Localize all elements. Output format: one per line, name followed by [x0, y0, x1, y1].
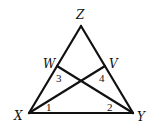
vertex-label-z: Z [75, 8, 85, 22]
vertex-label-y: Y [137, 110, 146, 121]
point-label-v: V [109, 57, 119, 71]
segment-yz [81, 26, 133, 113]
angle-label-4: 4 [99, 72, 105, 84]
angle-label-1: 1 [46, 101, 52, 113]
angle-label-2: 2 [107, 101, 113, 113]
angle-label-3: 3 [56, 72, 62, 84]
point-label-w: W [43, 57, 57, 71]
vertex-label-x: X [13, 109, 23, 121]
triangle-diagram: Z X Y W V 1 2 3 4 [0, 0, 153, 121]
